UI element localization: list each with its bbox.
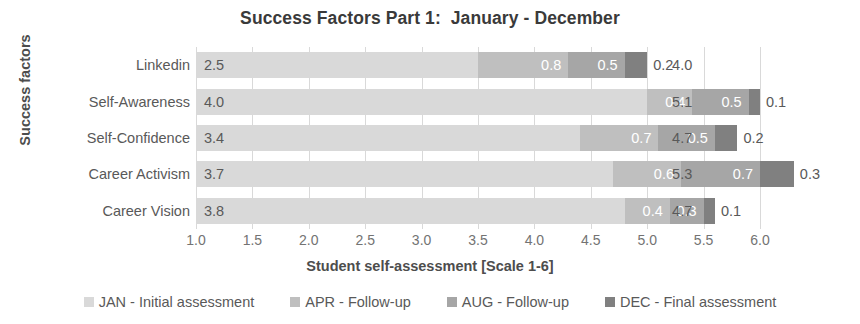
bar-value-label: 3.4 [204, 130, 224, 146]
bar-value-label: 3.7 [204, 166, 224, 182]
bar-segment [625, 52, 648, 78]
legend-item[interactable]: JAN - Initial assessment [84, 294, 255, 310]
legend-swatch-icon [290, 297, 300, 307]
x-axis-tick-label: 1.5 [229, 232, 275, 248]
legend-item[interactable]: AUG - Follow-up [447, 294, 569, 310]
y-axis-label: Career Activism [30, 164, 190, 184]
legend-item[interactable]: DEC - Final assessment [605, 294, 776, 310]
bar-segment: 3.8 [196, 198, 625, 224]
x-axis-tick-label: 4.5 [568, 232, 614, 248]
y-axis-label: Self-Awareness [30, 92, 190, 112]
legend-swatch-icon [605, 297, 615, 307]
x-axis-tick-label: 3.0 [399, 232, 445, 248]
legend-item[interactable]: APR - Follow-up [290, 294, 411, 310]
bar-total-label: 4.7 [659, 198, 705, 224]
bar-segment: 2.5 [196, 52, 478, 78]
chart-legend: JAN - Initial assessmentAPR - Follow-upA… [0, 294, 860, 310]
bar-value-label: 0.5 [597, 57, 617, 73]
bar-row: 4.00.40.50.15.1 [196, 89, 760, 115]
bar-value-label-outside: 0.2 [737, 125, 763, 151]
x-axis-tick-label: 2.0 [286, 232, 332, 248]
bar-total-label: 5.1 [659, 89, 705, 115]
bar-segment: 4.0 [196, 89, 647, 115]
bar-total-label: 5.3 [659, 161, 705, 187]
x-axis-tick-label: 4.0 [511, 232, 557, 248]
bar-total-label: 4.0 [659, 52, 705, 78]
x-axis-title: Student self-assessment [Scale 1-6] [0, 258, 860, 274]
x-axis-tick-label: 2.5 [342, 232, 388, 248]
bar-row: 3.40.70.50.24.7 [196, 125, 760, 151]
chart-container: Success Factors Part 1: January - Decemb… [0, 0, 860, 324]
x-axis-tick-label: 3.5 [455, 232, 501, 248]
bar-row: 2.50.80.50.24.0 [196, 52, 760, 78]
bar-value-label-outside: 0.3 [794, 161, 820, 187]
bar-segment: 0.7 [580, 125, 659, 151]
x-axis-tick-label: 6.0 [737, 232, 783, 248]
bar-value-label: 0.5 [722, 94, 742, 110]
bar-value-label: 0.8 [541, 57, 561, 73]
plot-area: 2.50.80.50.24.04.00.40.50.15.13.40.70.50… [196, 47, 760, 229]
x-axis-tick-labels: 1.01.52.02.53.03.54.04.55.05.56.0 [196, 232, 760, 254]
bar-segment [715, 125, 738, 151]
bar-total-label: 4.7 [659, 125, 705, 151]
legend-swatch-icon [447, 297, 457, 307]
bar-segment: 3.7 [196, 161, 613, 187]
bar-row: 3.80.40.30.14.7 [196, 198, 760, 224]
chart-title: Success Factors Part 1: January - Decemb… [0, 8, 860, 29]
bar-segment: 3.4 [196, 125, 580, 151]
legend-label: DEC - Final assessment [620, 294, 776, 310]
x-axis-tick-label: 5.0 [624, 232, 670, 248]
x-axis-tick-label: 5.5 [681, 232, 727, 248]
bar-segment [704, 198, 715, 224]
bar-segment [760, 161, 794, 187]
bar-value-label-outside: 0.1 [760, 89, 786, 115]
bar-value-label: 4.0 [204, 94, 224, 110]
bar-row: 3.70.60.70.35.3 [196, 161, 760, 187]
bar-segment: 0.8 [478, 52, 568, 78]
bar-segment: 0.5 [568, 52, 624, 78]
bar-value-label: 0.7 [631, 130, 651, 146]
legend-swatch-icon [84, 297, 94, 307]
legend-label: APR - Follow-up [305, 294, 411, 310]
legend-label: AUG - Follow-up [462, 294, 569, 310]
bar-value-label: 2.5 [204, 57, 224, 73]
bar-value-label: 0.7 [733, 166, 753, 182]
y-axis-label: Linkedin [30, 55, 190, 75]
bar-segment [749, 89, 760, 115]
y-axis-label: Self-Confidence [30, 128, 190, 148]
legend-label: JAN - Initial assessment [99, 294, 255, 310]
bar-value-label-outside: 0.1 [715, 198, 741, 224]
x-axis-tick-label: 1.0 [173, 232, 219, 248]
bar-value-label: 3.8 [204, 203, 224, 219]
y-axis-category-labels: LinkedinSelf-AwarenessSelf-ConfidenceCar… [28, 47, 190, 229]
y-axis-label: Career Vision [30, 201, 190, 221]
